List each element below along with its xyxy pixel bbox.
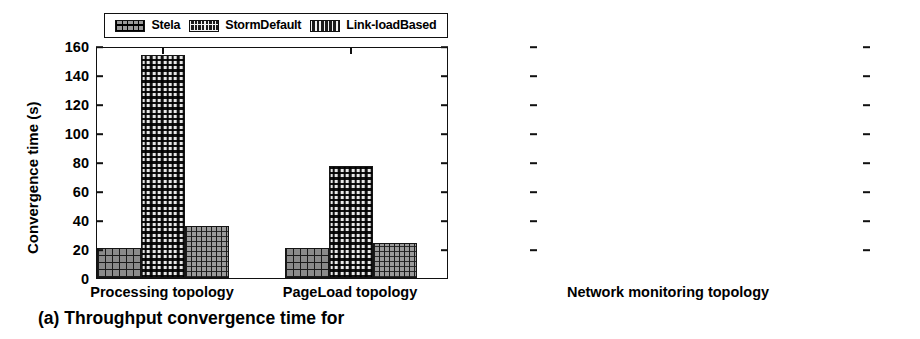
y-tick-label: 120 xyxy=(65,98,89,113)
legend-panel-a: Stela StormDefault Link-loadBased xyxy=(104,13,448,38)
chart-panel-b: Stela StormDefault Link-loadBased Conver… xyxy=(460,0,920,339)
y-tick-mark-right xyxy=(441,220,448,222)
y-tick-mark-right xyxy=(441,133,448,135)
y-tick-mark-right xyxy=(441,104,448,106)
x-tick-label: Network monitoring topology xyxy=(567,285,769,300)
y-tick-mark xyxy=(530,249,537,251)
y-tick-mark xyxy=(96,133,103,135)
bar-stela xyxy=(97,248,141,278)
y-tick-label: 100 xyxy=(65,127,89,142)
y-tick-mark xyxy=(530,46,537,48)
y-tick-mark-right xyxy=(863,162,870,164)
y-tick-label: 20 xyxy=(73,243,89,258)
bar-linkloadbased xyxy=(373,243,417,278)
x-tick-mark xyxy=(350,47,352,54)
bar-linkloadbased xyxy=(185,226,229,278)
x-tick-mark xyxy=(162,47,164,54)
y-tick-mark xyxy=(96,191,103,193)
y-tick-mark xyxy=(96,249,103,251)
y-tick-mark xyxy=(530,220,537,222)
y-tick-mark xyxy=(96,104,103,106)
legend-label-linkloadbased: Link-loadBased xyxy=(346,19,436,32)
y-tick-mark-right xyxy=(863,191,870,193)
legend-entry-stormdefault: StormDefault xyxy=(189,19,301,32)
legend-swatch-linkloadbased-icon xyxy=(310,20,340,32)
bar-stormdefault xyxy=(329,166,373,278)
y-tick-mark xyxy=(530,162,537,164)
y-tick-mark-right xyxy=(441,249,448,251)
y-tick-label: 140 xyxy=(65,69,89,84)
y-tick-mark xyxy=(530,133,537,135)
y-tick-mark xyxy=(96,46,103,48)
legend-swatch-stela-icon xyxy=(115,20,145,32)
chart-panel-a: Stela StormDefault Link-loadBased Conver… xyxy=(0,0,460,339)
caption-a: (a) Throughput convergence time for xyxy=(38,310,344,328)
y-tick-label: 0 xyxy=(81,272,89,287)
y-tick-mark-right xyxy=(863,104,870,106)
legend-entry-linkloadbased: Link-loadBased xyxy=(310,19,436,32)
bar-stormdefault xyxy=(141,55,185,278)
y-tick-mark-right xyxy=(441,46,448,48)
y-axis-ticks-a: 020406080100120140160 xyxy=(55,47,89,279)
legend-swatch-stormdefault-icon xyxy=(189,20,219,32)
y-tick-mark xyxy=(530,75,537,77)
legend-label-stormdefault: StormDefault xyxy=(225,19,301,32)
y-tick-mark xyxy=(96,220,103,222)
y-tick-mark-right xyxy=(863,133,870,135)
y-tick-mark-right xyxy=(863,249,870,251)
y-tick-mark xyxy=(96,75,103,77)
y-tick-label: 160 xyxy=(65,40,89,55)
x-tick-label: Processing topology xyxy=(90,285,233,300)
y-tick-mark xyxy=(96,162,103,164)
y-tick-mark xyxy=(530,191,537,193)
y-tick-mark-right xyxy=(863,220,870,222)
figure-container: Stela StormDefault Link-loadBased Conver… xyxy=(0,0,920,339)
y-tick-label: 40 xyxy=(73,214,89,229)
y-tick-mark-right xyxy=(441,191,448,193)
bar-group-a xyxy=(97,48,447,278)
y-tick-mark-right xyxy=(863,46,870,48)
bar-stela xyxy=(285,248,329,278)
legend-label-stela: Stela xyxy=(151,19,180,32)
legend-entry-stela: Stela xyxy=(115,19,180,32)
x-tick-label: PageLoad topology xyxy=(283,285,418,300)
plot-area-a xyxy=(96,47,448,279)
y-tick-mark-right xyxy=(863,75,870,77)
y-tick-mark-right xyxy=(441,75,448,77)
y-tick-mark-right xyxy=(441,162,448,164)
y-tick-label: 80 xyxy=(73,156,89,171)
y-tick-label: 60 xyxy=(73,185,89,200)
y-tick-mark xyxy=(530,104,537,106)
y-axis-label-a: Convergence time (s) xyxy=(24,101,41,254)
